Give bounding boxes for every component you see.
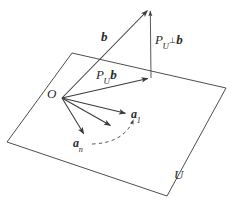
label-vector-pu-b: PUb — [96, 68, 117, 84]
label-vector-b: b — [101, 30, 108, 43]
label-vector-an: an — [73, 137, 83, 153]
label-plane-U: U — [174, 168, 183, 181]
vector-pu-perp-b — [150, 11, 151, 78]
vector-middle-basis — [62, 98, 111, 126]
figure-canvas — [0, 0, 233, 203]
vector-an — [62, 98, 84, 134]
vector-a1 — [62, 98, 126, 113]
label-vector-a1: a1 — [131, 108, 141, 124]
projection-figure: b PU⊥b PUb O a1 an U — [0, 0, 233, 203]
label-vector-pu-perp-b: PU⊥b — [155, 33, 183, 49]
label-origin: O — [47, 87, 56, 100]
basis-ellipsis-arc — [92, 120, 134, 145]
